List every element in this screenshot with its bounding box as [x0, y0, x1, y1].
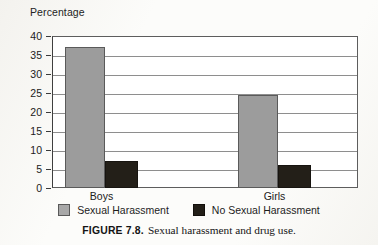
chart-legend: Sexual HarassmentNo Sexual Harassment — [0, 204, 378, 216]
legend-label: Sexual Harassment — [77, 204, 169, 216]
figure-caption: FIGURE 7.8.Sexual harassment and drug us… — [0, 224, 378, 236]
y-axis-tick — [46, 150, 51, 151]
y-axis-tick-label: 10 — [16, 145, 42, 156]
y-axis-title: Percentage — [30, 6, 85, 18]
bar-girls-sexual-harassment — [238, 95, 278, 188]
bar-boys-no-sexual-harassment — [105, 161, 138, 188]
bar-boys-sexual-harassment — [65, 47, 105, 188]
y-axis-tick — [46, 131, 51, 132]
y-axis-tick — [46, 55, 51, 56]
y-axis-tick-label: 20 — [16, 107, 42, 118]
black-swatch-icon — [193, 204, 205, 216]
category-label-girls: Girls — [245, 190, 305, 202]
legend-item-sexual-harassment: Sexual Harassment — [58, 204, 169, 216]
figure-number: FIGURE 7.8. — [82, 225, 144, 236]
legend-label: No Sexual Harassment — [212, 204, 320, 216]
legend-item-no-sexual-harassment: No Sexual Harassment — [193, 204, 320, 216]
y-axis-tick — [46, 112, 51, 113]
y-axis-tick-label: 0 — [16, 183, 42, 194]
bar-girls-no-sexual-harassment — [278, 165, 311, 188]
y-axis-tick — [46, 74, 51, 75]
y-axis-tick-label: 35 — [16, 50, 42, 61]
y-axis-tick-label: 15 — [16, 126, 42, 137]
y-axis-tick-label: 40 — [16, 31, 42, 42]
figure-caption-text: Sexual harassment and drug use. — [148, 224, 296, 236]
y-axis-tick-label: 30 — [16, 69, 42, 80]
category-label-boys: Boys — [72, 190, 132, 202]
y-axis-tick — [46, 36, 51, 37]
y-axis-tick-label: 25 — [16, 88, 42, 99]
gray-swatch-icon — [58, 204, 70, 216]
y-axis-tick — [46, 93, 51, 94]
y-axis-tick — [46, 169, 51, 170]
y-axis-tick — [46, 188, 51, 189]
figure-page: Percentage 4035302520151050 BoysGirls Se… — [0, 0, 378, 245]
y-axis-tick-label: 5 — [16, 164, 42, 175]
